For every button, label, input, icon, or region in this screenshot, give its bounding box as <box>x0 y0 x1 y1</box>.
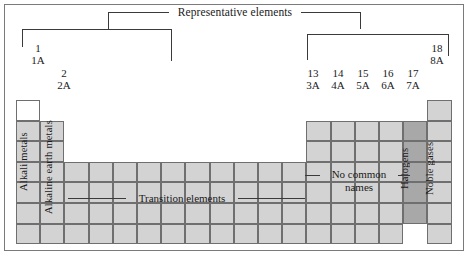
element-cell <box>331 121 355 142</box>
no-common-names-leader-right <box>398 175 410 176</box>
element-cell <box>210 224 234 245</box>
group-number: 15 <box>350 68 376 80</box>
group-roman: 4A <box>325 80 351 92</box>
element-cell <box>306 203 330 224</box>
element-cell <box>282 224 306 245</box>
periodic-table-figure: Representative elements 1 1A 2 2A 13 3A … <box>0 0 470 257</box>
element-cell <box>113 224 137 245</box>
label-transition-elements: Transition elements <box>128 192 236 205</box>
element-cell <box>137 203 161 224</box>
group-header-1: 1 1A <box>18 43 58 66</box>
label-no-common-names: No common names <box>320 168 398 193</box>
element-cell <box>89 224 113 245</box>
element-cell <box>161 162 185 183</box>
group-number: 17 <box>400 68 426 80</box>
no-common-names-line1: No common <box>332 168 387 180</box>
group-roman: 7A <box>400 80 426 92</box>
element-cell <box>331 203 355 224</box>
element-cell <box>113 162 137 183</box>
caption-leader-right <box>301 12 361 13</box>
element-cell <box>379 224 403 245</box>
caption-stem-left <box>108 12 109 29</box>
element-cell <box>234 162 258 183</box>
element-cell <box>355 141 379 162</box>
element-cell <box>16 224 40 245</box>
element-cell <box>282 182 306 203</box>
label-alkali-metals: Alkali metals <box>18 112 40 212</box>
element-cell <box>282 162 306 183</box>
group-roman: 5A <box>350 80 376 92</box>
element-cell <box>161 203 185 224</box>
group-header-2: 2 2A <box>44 68 84 91</box>
element-cell <box>89 203 113 224</box>
representative-elements-caption: Representative elements <box>0 6 470 19</box>
element-cell <box>258 182 282 203</box>
element-cell <box>137 224 161 245</box>
element-cell <box>306 224 330 245</box>
no-common-names-line2: names <box>345 181 373 193</box>
group-number: 1 <box>18 43 58 55</box>
caption-stem-right <box>360 12 361 29</box>
element-cell <box>258 162 282 183</box>
element-cell <box>355 203 379 224</box>
element-cell <box>89 182 113 203</box>
element-cell <box>306 121 330 142</box>
element-cell <box>355 121 379 142</box>
group-header-18: 18 8A <box>424 43 450 66</box>
element-cell <box>210 203 234 224</box>
element-cell <box>185 224 209 245</box>
element-cell <box>234 224 258 245</box>
group-number: 14 <box>325 68 351 80</box>
group-number: 13 <box>300 68 326 80</box>
element-cell <box>64 162 88 183</box>
transition-leader-left <box>68 198 126 199</box>
group-roman: 1A <box>18 55 58 67</box>
element-cell <box>210 162 234 183</box>
element-cell <box>185 203 209 224</box>
element-cell <box>137 162 161 183</box>
element-cell <box>64 182 88 203</box>
element-cell <box>234 182 258 203</box>
group-header-17: 17 7A <box>400 68 426 91</box>
element-cell <box>331 141 355 162</box>
label-alkaline-earth-metals: Alkaline earth metals <box>43 104 65 230</box>
element-cell <box>161 224 185 245</box>
element-cell <box>234 203 258 224</box>
group-roman: 8A <box>424 55 450 67</box>
group-header-15: 15 5A <box>350 68 376 91</box>
label-halogens: Halogens <box>399 125 421 211</box>
element-cell <box>113 203 137 224</box>
group-roman: 6A <box>375 80 401 92</box>
element-cell <box>258 203 282 224</box>
group-header-16: 16 6A <box>375 68 401 91</box>
element-cell <box>185 162 209 183</box>
element-cell <box>282 203 306 224</box>
group-number: 18 <box>424 43 450 55</box>
element-cell <box>64 203 88 224</box>
element-cell <box>331 224 355 245</box>
group-number: 16 <box>375 68 401 80</box>
caption-leader-left <box>108 12 169 13</box>
element-cell <box>306 141 330 162</box>
group-roman: 3A <box>300 80 326 92</box>
label-noble-gases: Noble gases <box>424 118 446 218</box>
element-cell <box>427 224 451 245</box>
no-common-names-leader-left <box>305 175 320 176</box>
group-number: 2 <box>44 68 84 80</box>
element-cell <box>355 224 379 245</box>
element-cell <box>258 224 282 245</box>
group-header-13: 13 3A <box>300 68 326 91</box>
element-cell <box>64 224 88 245</box>
group-header-14: 14 4A <box>325 68 351 91</box>
element-cell <box>89 162 113 183</box>
group-roman: 2A <box>44 80 84 92</box>
transition-leader-right <box>238 198 305 199</box>
